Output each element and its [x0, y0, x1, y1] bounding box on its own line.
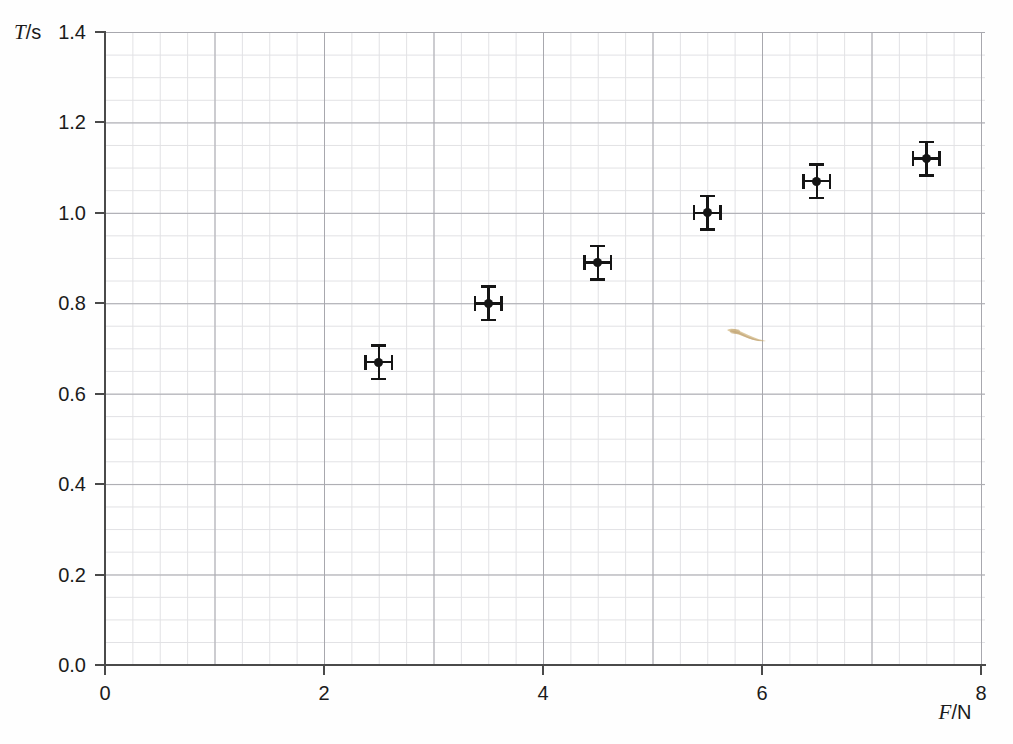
x-tick-label-0: 0 [99, 682, 110, 705]
point-marker [812, 177, 821, 186]
x-axis-symbol: F [939, 700, 952, 724]
y-error-cap-top [809, 163, 824, 166]
x-axis-unit: /N [951, 701, 971, 723]
chart-page: 0.00.20.40.60.81.01.21.402468 T/s F/N [0, 0, 1013, 744]
y-error-cap-top [590, 245, 605, 248]
y-tick-label-0.8: 0.8 [28, 292, 86, 315]
x-error-cap-right [610, 255, 613, 270]
y-error-cap-bottom [481, 319, 496, 322]
x-tick-6 [761, 665, 763, 675]
x-tick-label-8: 8 [975, 682, 986, 705]
x-error-cap-left [583, 255, 586, 270]
y-tick-1.4 [95, 31, 105, 33]
y-tick-1.0 [95, 212, 105, 214]
x-tick-2 [323, 665, 325, 675]
y-tick-label-0.2: 0.2 [28, 563, 86, 586]
y-error-cap-bottom [371, 378, 386, 381]
y-axis-unit: /s [26, 21, 42, 43]
y-error-cap-top [919, 141, 934, 144]
y-error-cap-top [481, 285, 496, 288]
y-tick-label-0.4: 0.4 [28, 473, 86, 496]
y-axis-symbol: T [14, 20, 26, 44]
x-tick-label-2: 2 [318, 682, 329, 705]
grid-major [105, 32, 985, 665]
x-error-cap-left [693, 205, 696, 220]
point-marker [374, 358, 383, 367]
x-tick-8 [980, 665, 982, 675]
y-tick-label-0.0: 0.0 [28, 654, 86, 677]
x-error-cap-right [938, 151, 941, 166]
y-tick-1.2 [95, 121, 105, 123]
x-error-cap-right [500, 296, 503, 311]
y-error-cap-top [371, 344, 386, 347]
x-tick-4 [542, 665, 544, 675]
y-error-cap-bottom [919, 174, 934, 177]
y-tick-0.6 [95, 393, 105, 395]
y-axis-title: T/s [14, 20, 41, 45]
x-axis-line [104, 664, 986, 666]
x-error-cap-right [829, 174, 832, 189]
x-error-cap-left [364, 355, 367, 370]
point-marker [484, 299, 493, 308]
y-error-cap-bottom [809, 197, 824, 200]
y-axis-line [104, 31, 106, 667]
x-error-cap-left [474, 296, 477, 311]
y-error-cap-top [700, 195, 715, 198]
x-tick-label-6: 6 [756, 682, 767, 705]
x-error-cap-right [391, 355, 394, 370]
point-marker [922, 154, 931, 163]
y-tick-label-1.2: 1.2 [28, 111, 86, 134]
x-error-cap-left [912, 151, 915, 166]
y-tick-0.4 [95, 483, 105, 485]
x-tick-0 [104, 665, 106, 675]
y-tick-label-0.6: 0.6 [28, 382, 86, 405]
x-axis-title: F/N [939, 700, 972, 725]
y-tick-label-1.0: 1.0 [28, 201, 86, 224]
x-error-cap-right [719, 205, 722, 220]
y-tick-0.2 [95, 574, 105, 576]
y-error-cap-bottom [700, 228, 715, 231]
x-error-cap-left [802, 174, 805, 189]
x-tick-label-4: 4 [537, 682, 548, 705]
y-error-cap-bottom [590, 278, 605, 281]
plot-area [105, 32, 985, 665]
y-tick-0.8 [95, 302, 105, 304]
